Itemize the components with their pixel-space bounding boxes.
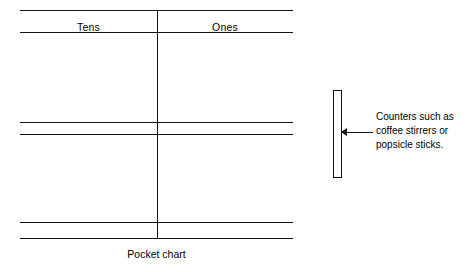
counter-annotation-line-3: popsicle sticks. [376, 138, 472, 152]
annotation-arrow-line [345, 132, 373, 133]
counter-annotation-line-2: coffee stirrers or [376, 124, 472, 138]
figure-caption: Pocket chart [20, 248, 293, 261]
pocket-chart-figure: Tens Ones Pocket chart Counters such as … [0, 0, 474, 272]
column-divider [157, 10, 158, 238]
annotation-arrow-head-icon [341, 128, 347, 136]
column-header-tens: Tens [20, 20, 157, 35]
counter-annotation-text: Counters such as coffee stirrers or pops… [376, 110, 472, 152]
pocket-chart-grid: Tens Ones [20, 8, 293, 240]
pocket-line-3-top [20, 238, 293, 239]
counter-annotation-line-1: Counters such as [376, 110, 472, 124]
column-header-ones: Ones [157, 20, 293, 35]
